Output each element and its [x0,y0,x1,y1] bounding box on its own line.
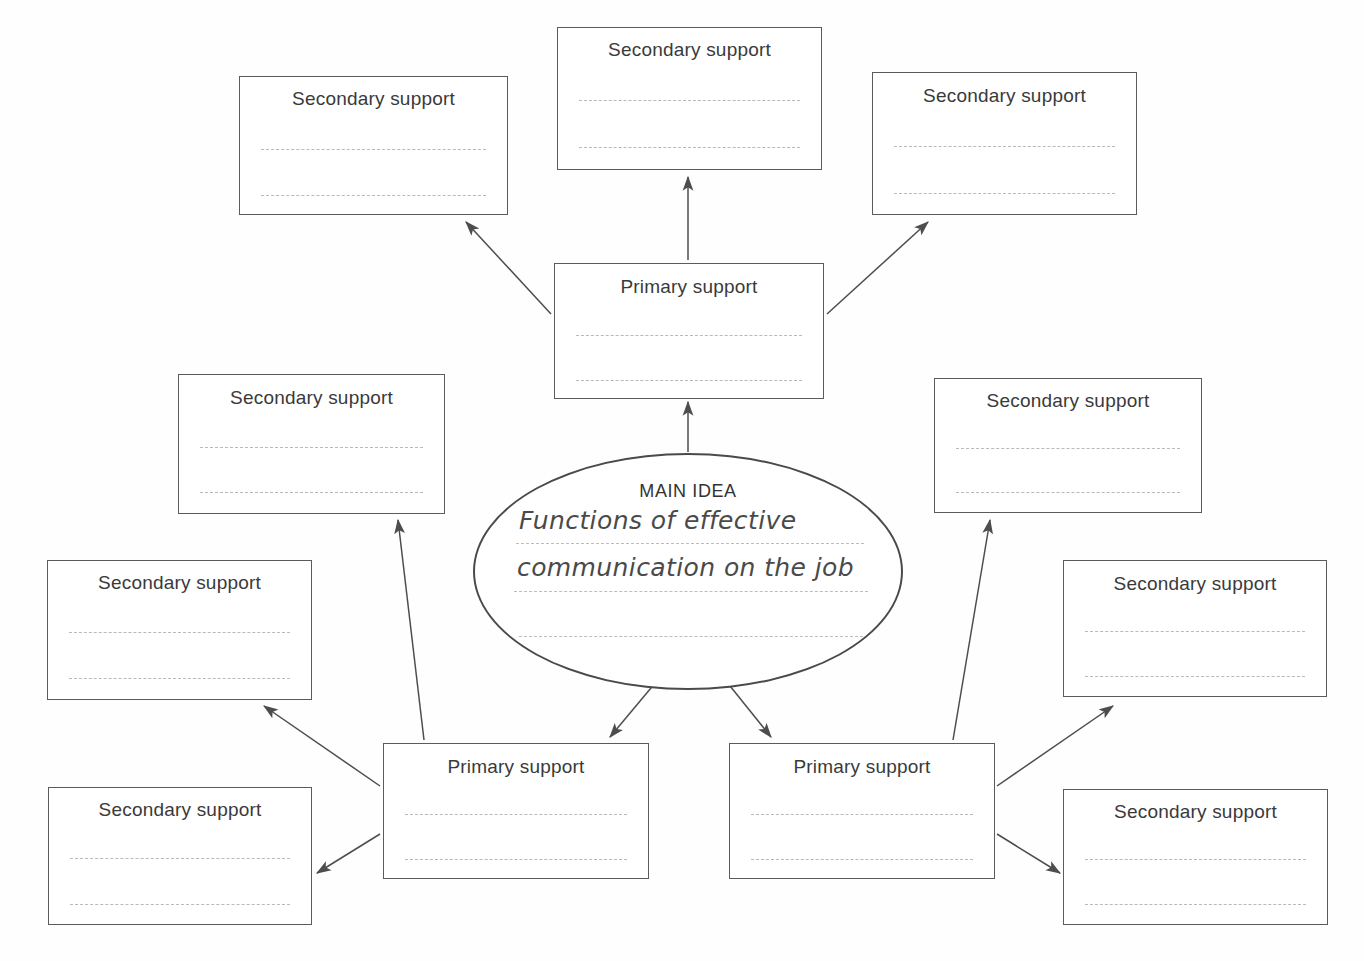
secondary-support-low-right-rule-2 [1085,676,1305,677]
secondary-support-low-left-rule-2 [69,678,290,679]
secondary-support-top-center-label: Secondary support [558,39,821,61]
connector-primary-br-to-secondary-low-right [997,706,1113,786]
secondary-support-mid-right-rule-2 [956,492,1179,493]
primary-support-bottom-right-label: Primary support [730,756,994,778]
secondary-support-top-center-rule-1 [579,100,800,101]
secondary-support-low-left[interactable]: Secondary support [47,560,312,700]
connector-primary-bl-to-secondary-bottom-left [317,834,380,873]
primary-support-bottom-left[interactable]: Primary support [383,743,649,879]
secondary-support-mid-right[interactable]: Secondary support [934,378,1202,513]
secondary-support-bottom-left[interactable]: Secondary support [48,787,312,925]
secondary-support-bottom-right-rule-1 [1085,859,1306,860]
primary-support-top-label: Primary support [555,276,823,298]
primary-support-bottom-right-rule-1 [751,814,973,815]
main-idea-handwritten-line-1: Functions of effective [519,506,797,535]
secondary-support-top-center[interactable]: Secondary support [557,27,822,170]
secondary-support-bottom-left-rule-2 [70,904,290,905]
secondary-support-low-right-label: Secondary support [1064,573,1326,595]
main-idea-handwritten-line-2: communication on the job [517,553,854,582]
main-idea-rule-3 [519,636,863,637]
secondary-support-mid-left-rule-1 [200,447,423,448]
secondary-support-mid-left-label: Secondary support [179,387,444,409]
connector-primary-bl-to-secondary-mid-left [398,520,424,740]
main-idea-ellipse[interactable]: MAIN IDEA Functions of effective communi… [473,453,903,690]
primary-support-top[interactable]: Primary support [554,263,824,399]
primary-support-bottom-right-rule-2 [751,859,973,860]
secondary-support-bottom-right-label: Secondary support [1064,801,1327,823]
secondary-support-bottom-left-rule-1 [70,858,290,859]
primary-support-top-rule-2 [576,380,801,381]
connector-primary-br-to-secondary-mid-right [953,520,990,740]
secondary-support-top-right-rule-1 [894,146,1115,147]
secondary-support-bottom-left-label: Secondary support [49,799,311,821]
secondary-support-top-left-rule-2 [261,195,485,196]
secondary-support-top-right[interactable]: Secondary support [872,72,1137,215]
secondary-support-top-left-rule-1 [261,149,485,150]
connector-primary-top-to-secondary-top-right [827,222,928,314]
primary-support-bottom-right[interactable]: Primary support [729,743,995,879]
primary-support-bottom-left-rule-1 [405,814,627,815]
secondary-support-low-left-rule-1 [69,632,290,633]
secondary-support-top-left-label: Secondary support [240,88,507,110]
secondary-support-top-left[interactable]: Secondary support [239,76,508,215]
secondary-support-bottom-right[interactable]: Secondary support [1063,789,1328,925]
main-idea-rule-1 [516,543,864,544]
primary-support-bottom-left-rule-2 [405,859,627,860]
secondary-support-low-left-label: Secondary support [48,572,311,594]
secondary-support-low-right[interactable]: Secondary support [1063,560,1327,697]
secondary-support-top-center-rule-2 [579,147,800,148]
secondary-support-mid-left-rule-2 [200,492,423,493]
secondary-support-top-right-label: Secondary support [873,85,1136,107]
main-idea-label: MAIN IDEA [475,481,901,502]
main-idea-rule-2 [514,591,868,592]
connector-primary-br-to-secondary-bottom-right [997,834,1060,873]
connector-primary-bl-to-secondary-low-left [264,706,380,786]
secondary-support-mid-right-label: Secondary support [935,390,1201,412]
secondary-support-top-right-rule-2 [894,193,1115,194]
secondary-support-low-right-rule-1 [1085,631,1305,632]
secondary-support-bottom-right-rule-2 [1085,904,1306,905]
graphic-organizer-canvas: MAIN IDEA Functions of effective communi… [0,0,1364,961]
primary-support-top-rule-1 [576,335,801,336]
secondary-support-mid-right-rule-1 [956,448,1179,449]
primary-support-bottom-left-label: Primary support [384,756,648,778]
connector-primary-top-to-secondary-top-left [466,222,551,314]
secondary-support-mid-left[interactable]: Secondary support [178,374,445,514]
